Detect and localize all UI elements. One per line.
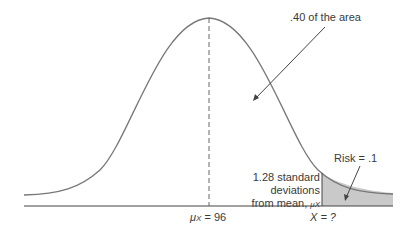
sd-label-text: from mean, bbox=[252, 197, 311, 209]
mean-label: μX = 96 bbox=[190, 211, 226, 225]
sd-label-line3: from mean, μX bbox=[240, 197, 320, 211]
normal-curve-figure bbox=[0, 0, 413, 237]
sd-label-line1: 1.28 standard bbox=[251, 171, 320, 184]
risk-label: Risk = .1 bbox=[334, 152, 377, 165]
mean-value: = 96 bbox=[201, 211, 226, 223]
x-unknown-label: X = ? bbox=[310, 211, 336, 224]
area-arrow bbox=[256, 27, 325, 98]
mu-subscript: X bbox=[315, 200, 320, 209]
area-arrowhead-icon bbox=[253, 94, 259, 101]
sd-label-line2: deviations bbox=[251, 184, 320, 197]
area-label: .40 of the area bbox=[290, 11, 361, 24]
